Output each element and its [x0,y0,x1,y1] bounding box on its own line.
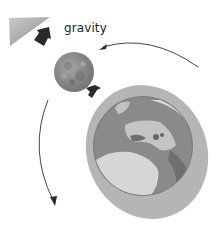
orbit-arc-upper [99,43,198,67]
moon [54,52,94,92]
gravity-arrow-large-icon [34,27,51,46]
gravity-arrow-small-icon [86,85,101,98]
orbit-arc-lower [39,100,57,206]
gravity-label: gravity [64,21,107,35]
diagram-canvas: gravity [0,0,218,227]
